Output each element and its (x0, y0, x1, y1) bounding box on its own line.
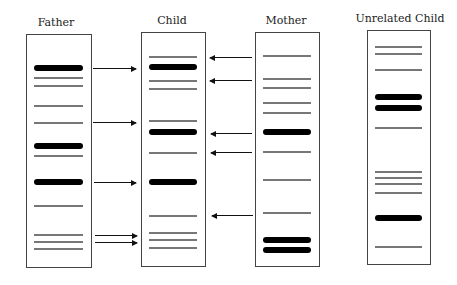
thin-band (263, 151, 311, 153)
thick-band (34, 143, 83, 149)
thin-band (263, 78, 311, 80)
thin-band (263, 102, 311, 104)
thin-band (149, 239, 197, 241)
thin-band (263, 87, 311, 89)
thin-band (34, 241, 83, 243)
arrow-right-icon (95, 235, 137, 236)
thin-band (149, 247, 197, 249)
thin-band (375, 46, 422, 48)
thick-band (375, 94, 422, 100)
thin-band (375, 192, 422, 194)
thin-band (375, 127, 422, 129)
lane-label-child: Child (157, 14, 187, 27)
thin-band (34, 205, 83, 207)
arrow-right-icon (94, 182, 136, 183)
thin-band (263, 55, 311, 57)
thin-band (375, 177, 422, 179)
thick-band (149, 179, 197, 185)
thin-band (149, 120, 197, 122)
thin-band (34, 122, 83, 124)
arrow-right-icon (93, 122, 136, 123)
thick-band (149, 64, 197, 70)
lane-label-unrelated-child: Unrelated Child (355, 12, 444, 25)
thin-band (263, 179, 311, 181)
thick-band (34, 179, 83, 185)
thin-band (34, 77, 83, 79)
thin-band (375, 171, 422, 173)
arrow-right-icon (95, 242, 137, 243)
thin-band (149, 56, 197, 58)
thin-band (34, 155, 83, 157)
arrow-left-icon (211, 133, 252, 134)
thin-band (149, 232, 197, 234)
arrow-right-icon (93, 68, 136, 69)
thick-band (149, 129, 197, 135)
thin-band (149, 80, 197, 82)
thick-band (263, 237, 311, 243)
thin-band (34, 105, 83, 107)
thin-band (149, 88, 197, 90)
thick-band (263, 247, 311, 253)
lane-label-father: Father (38, 16, 75, 29)
thin-band (34, 85, 83, 87)
thin-band (263, 112, 311, 114)
thin-band (375, 183, 422, 185)
thin-band (375, 246, 422, 248)
thick-band (375, 215, 422, 221)
arrow-left-icon (212, 215, 253, 216)
thin-band (149, 152, 197, 154)
lane-mother (255, 32, 320, 267)
thin-band (263, 212, 311, 214)
thin-band (34, 234, 83, 236)
arrow-left-icon (210, 57, 252, 58)
thick-band (375, 105, 422, 111)
lane-label-mother: Mother (265, 14, 306, 27)
thick-band (34, 65, 83, 71)
arrow-left-icon (210, 80, 252, 81)
lane-unrelated-child (367, 30, 431, 265)
arrow-left-icon (211, 152, 252, 153)
thin-band (34, 248, 83, 250)
thin-band (149, 215, 197, 217)
thin-band (375, 53, 422, 55)
thick-band (263, 129, 311, 135)
thin-band (375, 69, 422, 71)
